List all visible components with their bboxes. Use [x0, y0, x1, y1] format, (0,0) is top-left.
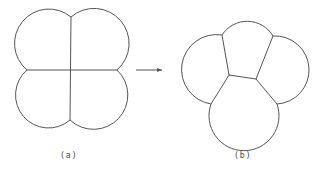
bubble-b-right	[273, 36, 309, 104]
film-b-bottom-right	[256, 79, 277, 104]
film-b-top-left	[222, 35, 229, 75]
bubble-b-bottom	[209, 104, 279, 151]
film-b-middle	[229, 75, 256, 79]
panel-a-bubbles	[15, 8, 130, 129]
panel-b-label: (b)	[234, 151, 251, 160]
bubble-a-bottom-right	[70, 70, 128, 129]
panel-b-bubbles	[182, 21, 309, 150]
bubble-diagram: (a) (b)	[0, 0, 324, 170]
film-b-bottom-left	[211, 75, 229, 104]
film-b-top-right	[256, 36, 273, 79]
bubble-b-top	[222, 21, 273, 36]
diagram-canvas	[0, 0, 324, 170]
film-a-vertical	[70, 17, 71, 120]
bubble-a-top-left	[15, 9, 71, 70]
bubble-b-left	[182, 35, 222, 104]
bubble-a-bottom-left	[16, 70, 70, 128]
bubble-a-top-right	[71, 8, 129, 70]
panel-a-label: (a)	[60, 151, 77, 160]
